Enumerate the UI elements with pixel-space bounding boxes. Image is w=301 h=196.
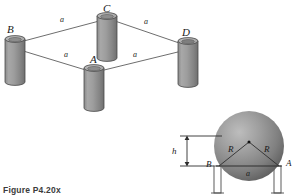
post-a: [84, 65, 104, 112]
support-post-right: [274, 166, 281, 193]
label-post-d: D: [181, 26, 190, 38]
edge-c-d: [112, 20, 185, 45]
label-height-h: h: [172, 146, 177, 156]
label-contact-a: A: [285, 158, 292, 168]
engineering-figure-svg: B C D A a a a a R R a B A: [0, 0, 301, 196]
label-post-c: C: [103, 2, 111, 14]
figure-caption: Figure P4.20x: [3, 185, 61, 195]
label-edge-ad: a: [133, 50, 137, 59]
label-post-b: B: [7, 23, 14, 35]
post-c: [97, 13, 117, 62]
label-post-a: A: [89, 53, 97, 65]
label-radius-right: R: [263, 144, 270, 154]
label-edge-cd: a: [144, 17, 148, 26]
label-edge-bc: a: [60, 15, 64, 24]
sphere-center-dot: [248, 141, 251, 144]
label-chord-a: a: [246, 169, 250, 178]
label-edge-ba: a: [64, 50, 68, 59]
post-d: [178, 38, 198, 88]
label-contact-b: B: [206, 159, 212, 169]
post-b: [5, 36, 25, 86]
label-radius-left: R: [227, 144, 234, 154]
edge-b-a: [20, 50, 89, 71]
figure-root: B C D A a a a a R R a B A: [0, 0, 301, 196]
support-post-left: [214, 166, 221, 193]
